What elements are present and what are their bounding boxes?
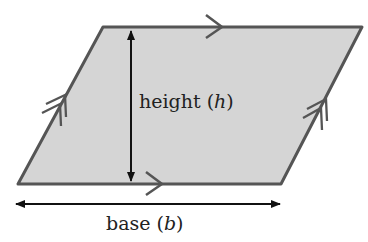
height-label: height (h) [139, 90, 234, 112]
parallelogram-diagram: height (h) base (b) [0, 0, 368, 242]
base-label: base (b) [106, 212, 184, 234]
